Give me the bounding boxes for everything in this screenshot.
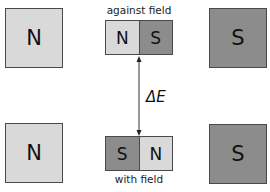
double-arrow-icon — [0, 0, 270, 192]
energy-difference-label: ΔE — [146, 88, 166, 106]
